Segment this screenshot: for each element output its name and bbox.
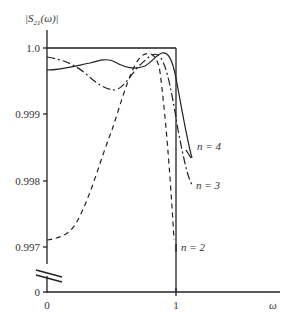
- xtick-1: 1: [173, 299, 179, 311]
- series-n2: [47, 54, 174, 240]
- label-n2: n = 2: [181, 241, 205, 253]
- x-axis-label: ω: [269, 299, 277, 311]
- s21-magnitude-chart: |S21(ω)| 1.0 0.999 0.998 0.997 0 0 1 ω n…: [0, 0, 298, 323]
- ytick-0: 0: [35, 286, 41, 298]
- y-axis-label: |S21(ω)|: [25, 12, 59, 27]
- ytick-0.999: 0.999: [15, 108, 40, 120]
- series-n3: [47, 54, 193, 186]
- ytick-0.998: 0.998: [15, 175, 40, 187]
- label-n3: n = 3: [196, 179, 220, 191]
- ytick-1.0: 1.0: [26, 42, 40, 54]
- series-n4: [47, 53, 192, 158]
- ytick-0.997: 0.997: [15, 241, 40, 253]
- label-n4: n = 4: [197, 140, 221, 152]
- xtick-0: 0: [44, 299, 50, 311]
